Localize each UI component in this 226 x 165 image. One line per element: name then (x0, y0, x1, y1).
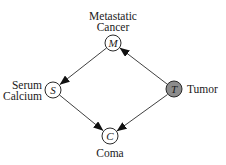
edge-s-to-c (60, 95, 104, 131)
node-c-label: Coma (96, 147, 123, 159)
node-tumor: T Tumor (166, 81, 218, 97)
edge-m-to-s (60, 48, 107, 85)
edge-t-to-m (120, 48, 167, 84)
bayesian-network-diagram: Metastatic Cancer M Serum Calcium S T Tu… (0, 0, 226, 165)
node-c-symbol: C (106, 130, 114, 142)
node-serum-calcium: Serum Calcium S (3, 79, 61, 102)
node-metastatic-cancer: Metastatic Cancer M (89, 10, 137, 51)
edge-t-to-c (117, 95, 168, 132)
node-m-symbol: M (107, 37, 118, 49)
node-coma: C Coma (96, 128, 123, 159)
node-s-symbol: S (50, 84, 56, 96)
node-t-label: Tumor (187, 83, 218, 95)
node-s-label-line2: Calcium (3, 90, 42, 102)
node-t-symbol: T (171, 83, 178, 95)
node-m-label-line2: Cancer (97, 21, 130, 33)
